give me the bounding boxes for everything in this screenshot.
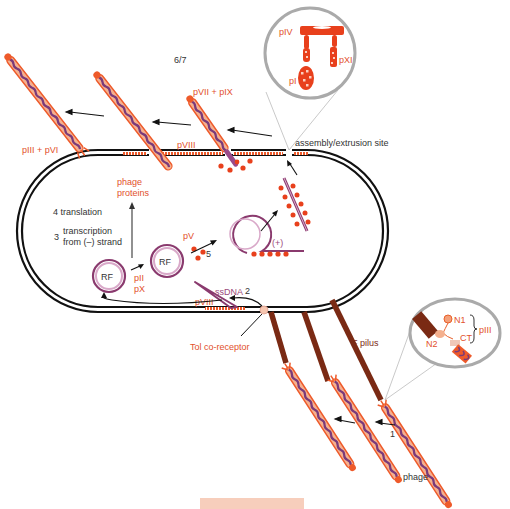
release-arrows (66, 110, 272, 137)
pi-label: pI (289, 76, 297, 86)
pii-label: pII (134, 273, 144, 283)
ct-label: CT (460, 333, 472, 343)
pvii-pix-label: pVII + pIX (193, 87, 233, 97)
step-1-label: 1 (390, 429, 395, 439)
tol-receptor-label: Tol co-receptor (190, 342, 250, 352)
inset-piii-domains: N1 N2 CT pIII (385, 299, 500, 400)
pviii-membrane-top-4 (294, 152, 308, 155)
rf-circle-left: RF (93, 260, 125, 292)
phage-released-left (1, 50, 90, 159)
n1-label: N1 (454, 315, 466, 325)
pviii-top-label: pVIII (177, 140, 196, 150)
phage-life-cycle-diagram: 6/7 pVII + pIX pIII + pVI pVIII assembly… (0, 0, 510, 509)
phage-label: phage (403, 472, 428, 482)
pviii-membrane-top-1 (123, 152, 147, 155)
phage-proteins-label-1: phage (117, 177, 142, 187)
piii-label: pIII (479, 325, 492, 335)
step-3-line1: transcription (63, 226, 112, 236)
step-3-line2: from (–) strand (63, 237, 122, 247)
translation-arrow (129, 202, 135, 258)
tol-receptor (241, 306, 268, 336)
step-2-label: 2 (245, 286, 250, 296)
rf-right-label: RF (159, 257, 171, 267)
n2-label: N2 (426, 339, 438, 349)
pviii-membrane-top-2 (157, 152, 223, 155)
pxi-label: pXI (339, 55, 353, 65)
rf-left-label: RF (101, 272, 113, 282)
px-label: pX (134, 284, 145, 294)
rf-circle-right: RF (151, 245, 183, 277)
piv-label: pIV (279, 27, 293, 37)
f-pilus-label: F pilus (352, 338, 379, 348)
replication-arrow (131, 264, 144, 270)
phage-proteins-label-2: proteins (117, 188, 150, 198)
phage-extruding-middle (91, 69, 174, 172)
step-4-label: 4 translation (53, 207, 102, 217)
pv-dots (191, 246, 205, 260)
ssdna-label: ssDNA (215, 287, 243, 297)
assembly-site-label: assembly/extrusion site (295, 138, 389, 148)
phage-attaching-1 (281, 361, 359, 473)
ssdna-pv-complex: (+) (230, 216, 304, 257)
piii-pvi-label: pIII + pVI (22, 145, 58, 155)
step-3-number: 3 (54, 232, 59, 242)
inset-assembly-complex: pIV pI pXI (265, 8, 355, 150)
f-pilus-1 (271, 312, 286, 363)
step-6-7-label: 6/7 (174, 55, 187, 65)
arrow-to-assembly-site (287, 160, 297, 175)
pviii-membrane-top-3 (233, 152, 283, 155)
phage-attaching-3 (377, 398, 455, 509)
pviii-membrane-bottom (205, 307, 245, 310)
pv-ssdna-rod (279, 178, 311, 231)
bottom-bar (200, 498, 304, 509)
f-pilus-2 (304, 312, 328, 381)
step-5-label: 5 (206, 249, 211, 259)
pv-label: pV (183, 231, 194, 241)
plus-strand-label: (+) (272, 238, 283, 248)
